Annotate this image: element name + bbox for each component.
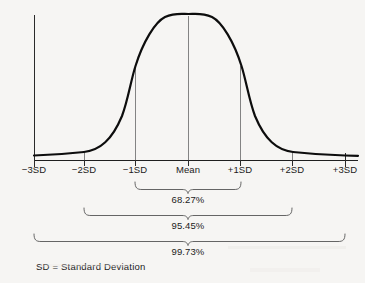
axis-label-plus-3sd: +3SD — [333, 164, 357, 175]
axis-label-minus-1sd: −1SD — [123, 164, 147, 175]
distribution-chart: −3SD −2SD −1SD Mean +1SD +2SD +3SD 68.27… — [0, 0, 365, 283]
bell-curve-path — [34, 14, 358, 156]
bracket-68 — [135, 182, 241, 194]
bracket-label-99: 99.73% — [172, 246, 205, 257]
axis-label-plus-1sd: +1SD — [228, 164, 252, 175]
axis-label-mean: Mean — [176, 164, 200, 175]
normal-distribution-figure: −3SD −2SD −1SD Mean +1SD +2SD +3SD 68.27… — [0, 0, 365, 283]
bracket-99 — [34, 234, 345, 246]
bracket-label-68: 68.27% — [172, 194, 205, 205]
bracket-95 — [84, 208, 292, 220]
bracket-label-95: 95.45% — [172, 220, 205, 231]
axis-label-plus-2sd: +2SD — [280, 164, 304, 175]
axis-label-minus-3sd: −3SD — [22, 164, 46, 175]
axis-label-minus-2sd: −2SD — [72, 164, 96, 175]
footnote-standard-deviation: SD = Standard Deviation — [36, 261, 145, 272]
